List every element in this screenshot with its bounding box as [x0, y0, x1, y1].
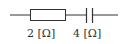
capacitor-label: 4 [Ω] — [73, 28, 101, 40]
resistor-symbol — [31, 10, 66, 21]
circuit-diagram — [0, 0, 125, 44]
resistor-label: 2 [Ω] — [27, 28, 55, 40]
